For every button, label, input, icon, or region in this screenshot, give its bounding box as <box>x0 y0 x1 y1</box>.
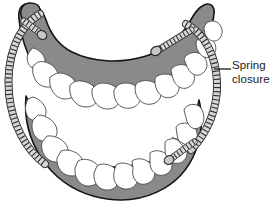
annotation-label-line1: Spring <box>232 59 277 73</box>
annotation-label: Spring closure <box>232 59 277 86</box>
dental-arch-figure <box>0 0 277 219</box>
annotation-label-line2: closure <box>232 73 277 87</box>
lower-arch-group <box>26 96 204 200</box>
upper-arch-group <box>19 3 222 109</box>
